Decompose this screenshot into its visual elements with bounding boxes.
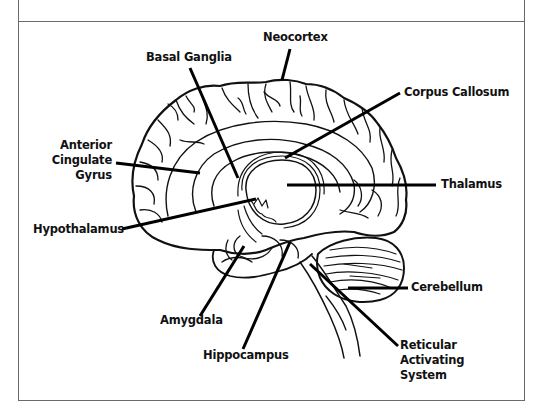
- label-anterior-cingulate-gyrus: Anterior Cingulate Gyrus: [50, 138, 112, 183]
- label-reticular-line2: Activating: [400, 353, 464, 368]
- label-hippocampus: Hippocampus: [203, 348, 289, 363]
- label-cerebellum: Cerebellum: [411, 280, 483, 295]
- leader-anterior-cingulate: [116, 163, 200, 173]
- label-corpus-callosum: Corpus Callosum: [404, 85, 509, 100]
- cingulate-outer: [166, 121, 374, 216]
- leader-hypothalamus: [122, 199, 256, 229]
- label-basal-ganglia: Basal Ganglia: [146, 50, 232, 65]
- leader-amygdala: [200, 246, 244, 316]
- label-anterior-cingulate-line3: Gyrus: [50, 168, 112, 183]
- label-reticular-line3: System: [400, 368, 464, 383]
- leader-hippocampus: [243, 242, 290, 349]
- label-reticular-line1: Reticular: [400, 338, 464, 353]
- thalamus-oval: [246, 160, 316, 224]
- label-thalamus: Thalamus: [441, 177, 502, 192]
- label-anterior-cingulate-line1: Anterior: [50, 138, 112, 153]
- label-reticular-activating-system: Reticular Activating System: [400, 338, 464, 383]
- label-anterior-cingulate-line2: Cingulate: [50, 153, 112, 168]
- label-amygdala: Amygdala: [160, 313, 223, 328]
- label-neocortex: Neocortex: [263, 30, 328, 45]
- leader-neocortex: [282, 49, 290, 80]
- label-hypothalamus: Hypothalamus: [33, 222, 124, 237]
